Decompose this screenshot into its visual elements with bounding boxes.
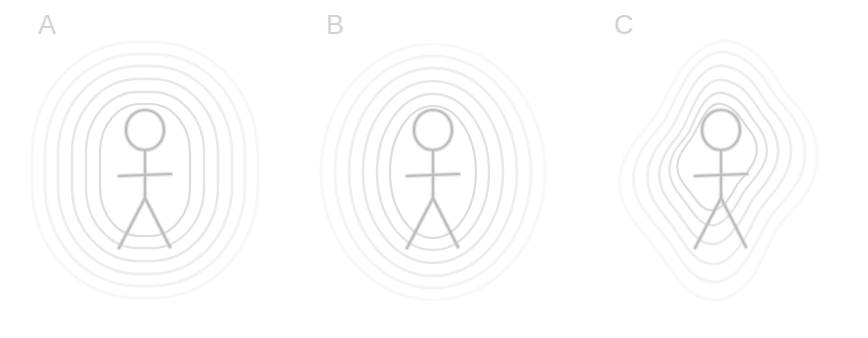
panel-c-canvas [576, 0, 866, 338]
contour-levels-c [620, 40, 818, 300]
stick-figure-b-outline [407, 110, 459, 248]
leg-left-outline [119, 198, 145, 248]
arms-outline [407, 174, 459, 176]
panel-b-canvas [288, 0, 578, 338]
head-outline [414, 110, 452, 150]
leg-left-outline [407, 198, 433, 248]
panel-b: B [288, 0, 578, 338]
stick-figure-c-outline [695, 110, 747, 248]
arms-outline [119, 174, 171, 176]
panel-c: C [576, 0, 866, 338]
head-outline [702, 110, 740, 150]
leg-right-outline [433, 198, 458, 247]
head-outline [126, 110, 164, 150]
leg-right-outline [145, 198, 170, 247]
contour-level-1 [677, 104, 756, 211]
leg-left-outline [695, 198, 721, 248]
figure-root: A [0, 0, 868, 338]
stick-figure-a-outline [119, 110, 171, 248]
panel-a-canvas [0, 0, 290, 338]
panel-a: A [0, 0, 290, 338]
arms-outline [695, 174, 747, 176]
